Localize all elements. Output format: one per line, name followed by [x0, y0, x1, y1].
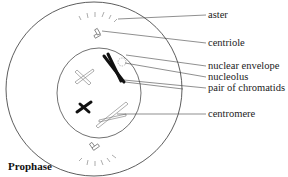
chromosome-light-right	[96, 102, 128, 128]
centriole-bottom	[89, 142, 99, 150]
diagram-title: Prophase	[8, 160, 52, 172]
nucleolus	[118, 58, 126, 66]
label-aster: aster	[208, 9, 228, 20]
label-pair-of-chromatids: pair of chromatids	[208, 82, 285, 93]
aster-top	[79, 12, 117, 22]
label-nuclear-envelope: nuclear envelope	[208, 60, 279, 71]
chromosome-dark-small	[77, 102, 91, 112]
chromosome-light-left	[75, 69, 94, 85]
label-centromere: centromere	[208, 108, 255, 119]
centriole-top	[94, 28, 101, 38]
label-centriole: centriole	[208, 37, 245, 48]
leader-lines	[102, 15, 206, 114]
aster-bottom	[79, 155, 116, 166]
label-nucleolus: nucleolus	[208, 71, 248, 82]
nuclear-envelope	[57, 48, 141, 138]
chromosome-dark-top	[104, 54, 124, 82]
